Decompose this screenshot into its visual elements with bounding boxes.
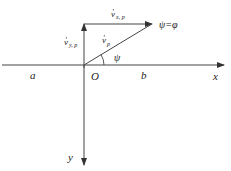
origin-label: O	[91, 70, 99, 82]
svg-text:v: v	[111, 9, 115, 19]
vy-label: v y, p	[64, 37, 77, 48]
svg-text:v: v	[102, 35, 106, 45]
psi-equals-phi-label: ψ=φ	[159, 19, 178, 30]
svg-text:x, p: x, p	[115, 14, 125, 20]
svg-text:p: p	[106, 41, 110, 47]
point-b-label: b	[141, 69, 147, 81]
x-axis-label: x	[212, 70, 218, 82]
svg-text:v: v	[64, 37, 68, 47]
vx-label: v x, p	[111, 9, 125, 20]
angle-arc	[101, 55, 104, 65]
y-axis-label: y	[67, 151, 73, 163]
svg-text:y, p: y, p	[68, 42, 77, 48]
point-a-label: a	[30, 69, 36, 81]
diagram-canvas: x y O a b ψ ψ=φ v x, p v y, p v p	[0, 0, 231, 171]
v-resultant-label: v p	[102, 35, 110, 47]
angle-psi-label: ψ	[114, 52, 121, 63]
